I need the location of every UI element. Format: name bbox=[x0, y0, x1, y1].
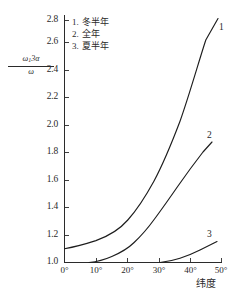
chart-figure: ω13α ω 1.0 1.2 1.4 1.6 1.8 2.0 2.2 2.4 2… bbox=[0, 0, 233, 301]
x-tick-label-20: 20° bbox=[116, 266, 140, 275]
y-tick-label-1.4: 1.4 bbox=[26, 202, 58, 212]
curve-end-label-1: 1 bbox=[219, 22, 224, 32]
legend-item-1: 1.冬半年 bbox=[72, 16, 109, 28]
x-axis-ticks bbox=[65, 258, 222, 263]
legend-item-2: 2.全年 bbox=[72, 28, 109, 40]
y-tick-label-2.4: 2.4 bbox=[26, 65, 58, 75]
curve-2-whole-year bbox=[89, 142, 212, 263]
legend-index-1: 1. bbox=[72, 17, 79, 27]
curve-end-label-3: 3 bbox=[207, 229, 212, 239]
x-tick-label-40: 40° bbox=[179, 266, 203, 275]
legend-index-2: 2. bbox=[72, 29, 79, 39]
legend: 1.冬半年 2.全年 3.夏半年 bbox=[72, 16, 109, 52]
y-tick-label-1.8: 1.8 bbox=[26, 147, 58, 157]
y-tick-label-1.2: 1.2 bbox=[26, 230, 58, 240]
x-tick-label-50: 50° bbox=[209, 266, 233, 275]
y-tick-label-2.2: 2.2 bbox=[26, 92, 58, 102]
curve-1-winter-half-year bbox=[65, 19, 219, 249]
x-tick-label-30: 30° bbox=[147, 266, 171, 275]
y-tick-label-2.0: 2.0 bbox=[26, 120, 58, 130]
legend-label-3: 夏半年 bbox=[82, 41, 109, 51]
data-curves bbox=[65, 19, 219, 263]
legend-index-3: 3. bbox=[72, 41, 79, 51]
curve-3-summer-half-year bbox=[160, 242, 217, 263]
y-tick-label-2.8: 2.8 bbox=[26, 15, 58, 25]
legend-item-3: 3.夏半年 bbox=[72, 40, 109, 52]
legend-label-1: 冬半年 bbox=[82, 17, 109, 27]
x-tick-label-0: 0° bbox=[53, 266, 77, 275]
y-tick-label-1.6: 1.6 bbox=[26, 175, 58, 185]
y-tick-label-2.6: 2.6 bbox=[26, 37, 58, 47]
x-axis-label: 纬度 bbox=[196, 278, 216, 289]
legend-label-2: 全年 bbox=[82, 29, 100, 39]
y-axis-ticks bbox=[65, 20, 70, 263]
curve-end-label-2: 2 bbox=[207, 130, 212, 140]
axis-lines bbox=[65, 15, 223, 263]
x-tick-label-10: 10° bbox=[84, 266, 108, 275]
